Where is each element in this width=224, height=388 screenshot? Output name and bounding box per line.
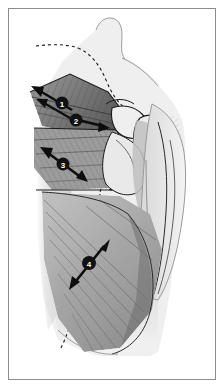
marker-3-label: 3 bbox=[61, 161, 66, 170]
anatomical-figure-panel: 1 2 3 4 bbox=[0, 0, 224, 388]
marker-2-label: 2 bbox=[74, 117, 79, 126]
marker-1-label: 1 bbox=[60, 100, 65, 109]
anatomy-illustration: 1 2 3 4 bbox=[0, 0, 224, 388]
marker-4-label: 4 bbox=[87, 260, 92, 269]
